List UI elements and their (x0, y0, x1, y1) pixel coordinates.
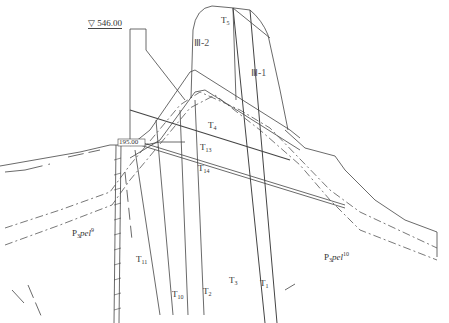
elevation-symbol: ▽ (88, 18, 95, 28)
fault-label-t1: T1 (260, 279, 269, 289)
fault-label-t11: T11 (136, 255, 147, 265)
dam-upstream-outline (130, 29, 185, 100)
zone-label-iii-2: Ⅲ-2 (194, 38, 209, 48)
fault-label-t5: T5 (221, 16, 230, 26)
dashdot-lower-left (5, 95, 437, 260)
formation-label-p3pel10: P3pel10 (324, 251, 349, 263)
cross-section-drawing (0, 0, 449, 323)
elevation-marker: ▽ 546.00 (88, 19, 122, 29)
fault-label-t3: T3 (229, 276, 238, 286)
formation-label-p3pel9: P3pel9 (72, 227, 94, 239)
fault-label-t4: T4 (208, 121, 217, 131)
zone-label-iii-1: Ⅲ-1 (251, 68, 266, 78)
fault-label-t10: T10 (172, 290, 184, 300)
inner-elevation-label: 195.00 (119, 139, 138, 146)
fault-label-t13: T13 (200, 143, 212, 153)
elevation-value: 546.00 (97, 18, 122, 28)
fault-label-t14: T14 (198, 164, 210, 174)
fault-label-t2: T2 (203, 287, 212, 297)
